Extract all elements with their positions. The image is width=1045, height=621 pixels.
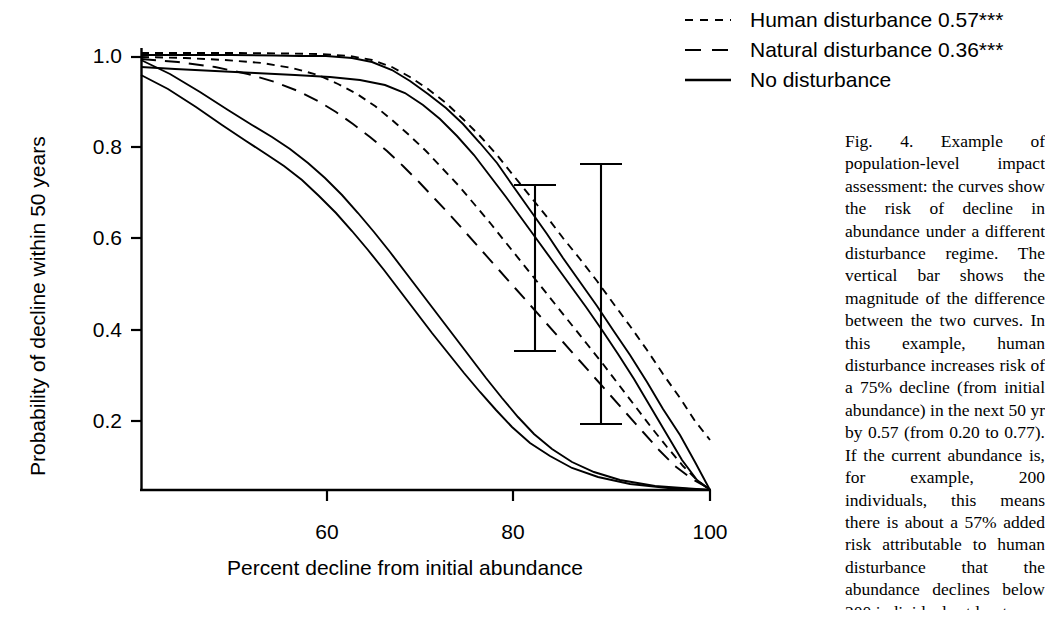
y-tick-label-0.4: 0.4 xyxy=(56,319,122,340)
curve-no-disturbance-3 xyxy=(141,60,710,490)
x-tick-label-100: 100 xyxy=(676,521,744,542)
y-tick-label-0.8: 0.8 xyxy=(56,136,122,157)
data-curves xyxy=(141,53,710,490)
y-tick-label-0.2: 0.2 xyxy=(56,410,122,431)
legend: Human disturbance 0.57*** Natural distur… xyxy=(684,6,1024,96)
long-dash-line-icon xyxy=(684,43,732,57)
axis-lines xyxy=(140,48,711,490)
legend-item-human-disturbance: Human disturbance 0.57*** xyxy=(684,6,1024,33)
short-dash-line-icon xyxy=(684,13,732,27)
legend-item-natural-disturbance: Natural disturbance 0.36*** xyxy=(684,36,1024,63)
plot-panel: 1.0 0.8 0.6 0.4 0.2 60 80 100 Probabilit… xyxy=(0,0,740,621)
legend-item-no-disturbance: No disturbance xyxy=(684,66,1024,93)
y-axis-title: Probability of decline within 50 years xyxy=(26,136,50,476)
x-tick-label-80: 80 xyxy=(483,521,543,542)
y-tick-label-1.0: 1.0 xyxy=(56,45,122,66)
impact-bar-2 xyxy=(580,164,622,424)
curve-no-disturbance-1 xyxy=(141,55,710,490)
axis-ticks xyxy=(131,57,710,501)
curve-human-disturbance-lower xyxy=(141,57,710,490)
curve-no-disturbance-2 xyxy=(141,67,710,490)
curve-no-disturbance-4 xyxy=(141,75,710,490)
plot-svg xyxy=(0,0,740,621)
legend-label-natural-disturbance: Natural disturbance 0.36*** xyxy=(750,38,1003,62)
x-tick-label-60: 60 xyxy=(297,521,357,542)
x-axis-title: Percent decline from initial abundance xyxy=(227,556,583,580)
curve-natural-disturbance xyxy=(141,59,710,489)
legend-label-human-disturbance: Human disturbance 0.57*** xyxy=(750,8,1003,32)
legend-label-no-disturbance: No disturbance xyxy=(750,68,891,92)
curve-human-disturbance-upper xyxy=(141,53,710,440)
figure-caption: Fig. 4. Example of population-level impa… xyxy=(845,130,1045,610)
y-tick-label-0.6: 0.6 xyxy=(56,227,122,248)
solid-line-icon xyxy=(684,73,732,87)
